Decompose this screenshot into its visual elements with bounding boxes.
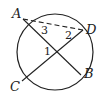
point-label-b: B (83, 66, 94, 81)
circle-diagram: A D B C 3 2 1 (0, 0, 105, 102)
angle-label-1: 1 (44, 45, 51, 58)
point-label-d: D (85, 22, 97, 37)
chord-ab (23, 19, 81, 75)
angle-label-3: 3 (41, 24, 48, 37)
chord-cd (22, 30, 83, 81)
point-label-a: A (11, 6, 21, 21)
angle-label-2: 2 (65, 29, 72, 42)
point-label-c: C (10, 79, 20, 94)
